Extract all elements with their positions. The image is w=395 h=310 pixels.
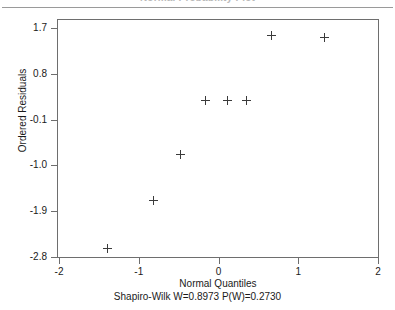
x-axis-tick-label: -2 <box>39 266 79 277</box>
top-horizontal-rule <box>2 7 393 8</box>
y-axis-tick <box>51 211 57 212</box>
y-axis-tick-label: -0.1 <box>30 115 47 125</box>
cutoff-figure-title: Normal Probability Plot <box>0 0 395 7</box>
y-axis-tick <box>51 257 57 258</box>
scatter-point <box>242 96 251 105</box>
scatter-point <box>320 33 329 42</box>
cutoff-figure-title-text: Normal Probability Plot <box>0 0 395 3</box>
x-axis-tick <box>59 258 60 264</box>
y-axis-title: Ordered Residuals <box>17 41 28 181</box>
x-axis-tick-label: 0 <box>199 266 239 277</box>
y-axis-tick <box>51 165 57 166</box>
x-axis-tick-label: 1 <box>278 266 318 277</box>
y-axis-tick <box>51 120 57 121</box>
normal-probability-plot-figure: Normal Probability Plot 1.70.8-0.1-1.0-1… <box>0 0 395 310</box>
y-axis-tick-label: -1.9 <box>30 206 47 216</box>
scatter-data-layer <box>57 19 379 258</box>
scatter-point <box>103 244 112 253</box>
scatter-point <box>149 196 158 205</box>
y-axis-tick-label: 0.8 <box>33 69 47 79</box>
shapiro-wilk-statistic-label: Shapiro-Wilk W=0.8973 P(W)=0.2730 <box>0 291 395 302</box>
scatter-point <box>267 31 276 40</box>
x-axis-tick <box>139 258 140 264</box>
x-axis-title: Normal Quantiles <box>57 278 379 289</box>
x-axis-tick-label: 2 <box>358 266 395 277</box>
y-axis-tick <box>51 28 57 29</box>
x-axis-tick-label: -1 <box>119 266 159 277</box>
x-axis-tick <box>298 258 299 264</box>
scatter-point <box>223 96 232 105</box>
x-axis-tick <box>219 258 220 264</box>
y-axis-tick-label: 1.7 <box>33 23 47 33</box>
scatter-point <box>201 96 210 105</box>
y-axis-tick-label: -1.0 <box>30 160 47 170</box>
x-axis-tick <box>378 258 379 264</box>
y-axis-tick-label: -2.8 <box>30 252 47 262</box>
scatter-point <box>176 150 185 159</box>
y-axis-tick <box>51 74 57 75</box>
